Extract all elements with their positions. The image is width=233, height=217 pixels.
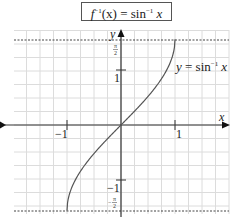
y-axis-label: y <box>109 27 116 41</box>
x-tick-label-neg1: −1 <box>55 127 68 141</box>
svg-text:π: π <box>114 43 117 49</box>
svg-text:2: 2 <box>114 50 117 56</box>
svg-text:π: π <box>113 196 116 202</box>
y-label-neg-pi-over-2: − π 2 <box>108 196 117 209</box>
x-axis-arrow-left-icon <box>0 122 6 129</box>
svg-text:−: − <box>108 199 112 205</box>
y-tick-label-neg1: −1 <box>107 181 120 195</box>
y-tick-label-pos1: 1 <box>114 71 120 85</box>
chart-plot: x y −1 1 1 −1 π 2 − π 2 y = sin−1x <box>0 0 233 217</box>
x-axis-label: x <box>218 110 225 124</box>
y-label-pi-over-2: π 2 <box>113 43 118 56</box>
x-tick-label-pos1: 1 <box>176 127 182 141</box>
curve-label: y = sin−1x <box>174 59 227 74</box>
svg-text:2: 2 <box>113 203 116 209</box>
